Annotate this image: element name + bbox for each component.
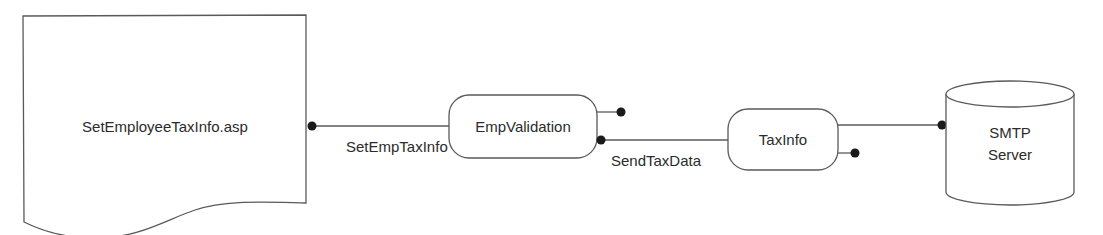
port-dot (617, 108, 626, 117)
port-dot (308, 122, 317, 131)
node-empvalidation: EmpValidation (449, 95, 626, 158)
diagram-canvas: SetEmployeeTaxInfo.asp SetEmpTaxInfo Emp… (0, 0, 1103, 235)
port-dot (851, 149, 860, 158)
edge-label-sendtaxdata: SendTaxData (611, 152, 702, 169)
node-smtp-server: SMTP Server (946, 81, 1074, 205)
node-document: SetEmployeeTaxInfo.asp (23, 15, 306, 235)
smtp-label-line1: SMTP (989, 124, 1031, 141)
port-dot (597, 136, 606, 145)
edge-setemptaxinfo: SetEmpTaxInfo (308, 122, 450, 156)
cylinder-top (946, 81, 1074, 107)
edge-taxinfo-smtp (838, 121, 947, 130)
port-dot (938, 121, 947, 130)
node-taxinfo: TaxInfo (728, 109, 860, 170)
empvalidation-label: EmpValidation (475, 118, 571, 135)
document-label: SetEmployeeTaxInfo.asp (82, 118, 248, 135)
smtp-label-line2: Server (988, 146, 1032, 163)
taxinfo-label: TaxInfo (759, 131, 807, 148)
edge-label-setemptaxinfo: SetEmpTaxInfo (346, 138, 448, 155)
edge-sendtaxdata: SendTaxData (597, 136, 729, 170)
